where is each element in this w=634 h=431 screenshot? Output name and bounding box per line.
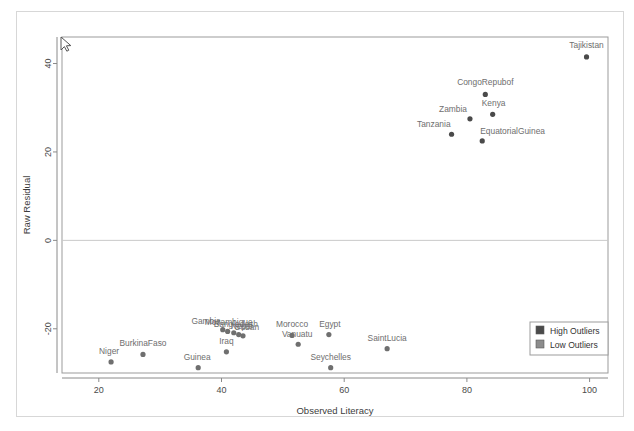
point-label: Niger xyxy=(99,346,119,356)
data-point[interactable] xyxy=(584,54,589,59)
data-point[interactable] xyxy=(467,116,472,121)
point-labels-layer: TajikistanCongoRepubofKenyaZambiaTanzani… xyxy=(99,40,604,362)
mouse-pointer-icon xyxy=(61,37,71,51)
x-tick-label: 20 xyxy=(94,385,104,395)
x-axis-title: Observed Literacy xyxy=(296,405,373,416)
y-tick-label: 40 xyxy=(43,59,53,69)
legend-label[interactable]: Low Outliers xyxy=(550,340,598,350)
point-label: BurkinaFaso xyxy=(119,338,166,348)
legend-swatch[interactable] xyxy=(536,340,544,348)
y-axis-title: Raw Residual xyxy=(21,176,32,235)
point-label: Seychelles xyxy=(310,352,351,362)
data-point[interactable] xyxy=(480,138,485,143)
point-label: SaintLucia xyxy=(368,333,407,343)
chart-page: 20406080100 40200-20 TajikistanCongoRepu… xyxy=(0,0,634,431)
data-point[interactable] xyxy=(328,365,333,370)
y-axis: 40200-20 xyxy=(43,37,57,373)
legend-label[interactable]: High Outliers xyxy=(550,326,600,336)
data-point[interactable] xyxy=(225,329,230,334)
point-label: EquatorialGuinea xyxy=(480,126,545,136)
data-point[interactable] xyxy=(385,346,390,351)
data-point[interactable] xyxy=(483,92,488,97)
data-point[interactable] xyxy=(490,112,495,117)
data-points-layer xyxy=(108,54,589,370)
point-label: Tajikistan xyxy=(569,40,604,50)
x-tick-label: 40 xyxy=(216,385,226,395)
point-label: Sudan xyxy=(235,322,260,332)
x-tick-label: 60 xyxy=(339,385,349,395)
point-label: Morocco xyxy=(276,319,308,329)
data-point[interactable] xyxy=(140,352,145,357)
point-label: Guinea xyxy=(184,352,211,362)
data-point[interactable] xyxy=(296,342,301,347)
point-label: Egypt xyxy=(319,319,341,329)
point-label: CongoRepubof xyxy=(457,77,514,87)
data-point[interactable] xyxy=(240,333,245,338)
data-point[interactable] xyxy=(449,132,454,137)
x-tick-label: 100 xyxy=(582,385,597,395)
data-point[interactable] xyxy=(224,349,229,354)
point-label: Iraq xyxy=(219,336,234,346)
x-tick-label: 80 xyxy=(462,385,472,395)
data-point[interactable] xyxy=(326,332,331,337)
y-tick-label: 20 xyxy=(43,147,53,157)
data-point[interactable] xyxy=(196,365,201,370)
point-label: Zambia xyxy=(439,104,467,114)
data-point[interactable] xyxy=(108,359,113,364)
point-label: Tanzania xyxy=(417,119,451,129)
y-tick-label: -20 xyxy=(43,322,53,335)
legend[interactable]: High OutliersLow Outliers xyxy=(530,322,608,355)
chart-svg: 20406080100 40200-20 TajikistanCongoRepu… xyxy=(0,0,634,431)
legend-swatch[interactable] xyxy=(536,326,544,334)
x-axis: 20406080100 xyxy=(62,378,608,395)
mouse-cursor xyxy=(61,37,71,51)
axis-titles: Observed LiteracyRaw Residual xyxy=(21,176,374,416)
point-label: Kenya xyxy=(482,98,506,108)
scatter-plot: 20406080100 40200-20 TajikistanCongoRepu… xyxy=(0,0,634,431)
point-label: Vanuatu xyxy=(282,329,313,339)
y-tick-label: 0 xyxy=(43,238,53,243)
